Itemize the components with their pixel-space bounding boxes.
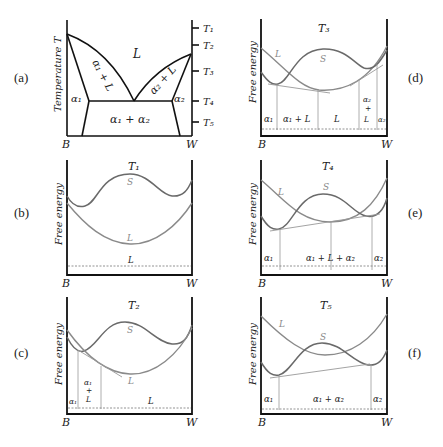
tick-t3: T₃ bbox=[203, 66, 214, 77]
range-alpha1: α₁ bbox=[264, 253, 273, 263]
panel-c-label: (c) bbox=[14, 345, 28, 360]
temperature-ticks: T₁ T₂ T₃ T₄ T₅ bbox=[192, 23, 214, 128]
svg-text:+: + bbox=[365, 104, 371, 113]
panel-d-b: B bbox=[257, 138, 266, 151]
panel-d-w: W bbox=[381, 138, 394, 151]
curve-l-label: L bbox=[127, 376, 134, 386]
tick-t4: T₄ bbox=[203, 96, 214, 107]
range-alpha1: α₁ bbox=[264, 114, 273, 124]
panel-e-label: (e) bbox=[408, 205, 422, 220]
panel-e-ylabel: Free energy bbox=[247, 183, 258, 246]
panel-e-w: W bbox=[381, 277, 394, 290]
curve-s-label: S bbox=[320, 332, 326, 342]
curve-s-label: S bbox=[127, 177, 133, 187]
range-alpha1: α₁ bbox=[69, 397, 77, 406]
curve-s-label: S bbox=[320, 54, 326, 64]
range-alpha2: α₂ bbox=[378, 116, 386, 124]
axis-b-label: B bbox=[61, 138, 70, 151]
panel-d-ylabel: Free energy bbox=[247, 41, 258, 104]
svg-text:+: + bbox=[86, 386, 92, 395]
panel-e-t4: T₄ (e) Free energy L S α₁ α₁ + L + α₂ α₂… bbox=[247, 160, 422, 290]
range-alpha1-alpha2: α₁ + α₂ bbox=[313, 394, 344, 404]
panel-f-t5: T₅ (f) Free energy L S α₁ α₁ + α₂ α₂ B W bbox=[247, 297, 421, 429]
panel-c-t2: T₂ (c) Free energy S L α₁ α₁ + L L B W bbox=[14, 297, 199, 429]
curve-l-label: L bbox=[278, 319, 285, 329]
range-l: L bbox=[127, 255, 134, 265]
solid-curve bbox=[261, 194, 387, 229]
panel-f-title: T₅ bbox=[320, 299, 332, 312]
region-alpha1-liquid: α₁ + L bbox=[90, 57, 116, 92]
region-alpha1: α₁ bbox=[71, 93, 82, 104]
panel-b-t1: T₁ (b) Free energy S L L B W bbox=[14, 160, 199, 290]
temperature-axis-label: Temperature T bbox=[52, 35, 63, 112]
region-alpha1-alpha2: α₁ + α₂ bbox=[110, 113, 150, 126]
panel-c-ylabel: Free energy bbox=[53, 323, 64, 386]
range-alpha2: α₂ bbox=[373, 394, 383, 404]
range-alpha1-l: α₁ + L bbox=[283, 114, 311, 124]
panel-e-title: T₄ bbox=[322, 160, 334, 173]
panel-c-b: B bbox=[61, 416, 70, 429]
curve-s-label: S bbox=[127, 325, 133, 335]
panel-d-title: T₃ bbox=[318, 22, 330, 35]
range-alpha1-l-alpha2: α₁ + L + α₂ bbox=[306, 253, 356, 263]
panel-f-w: W bbox=[381, 416, 394, 429]
range-alpha2-l: α₂ bbox=[363, 95, 371, 104]
panel-b-w: W bbox=[186, 277, 199, 290]
region-alpha2: α₂ bbox=[174, 93, 185, 104]
curve-s-label: S bbox=[323, 182, 329, 192]
panel-e-b: B bbox=[257, 277, 266, 290]
svg-text:L: L bbox=[363, 115, 369, 124]
axis-w-label: W bbox=[186, 138, 199, 151]
panel-b-b: B bbox=[61, 277, 70, 290]
svg-text:L: L bbox=[85, 395, 91, 404]
panel-d-label: (d) bbox=[408, 70, 423, 85]
tick-t2: T₂ bbox=[203, 40, 214, 51]
range-alpha1: α₁ bbox=[264, 394, 273, 404]
curve-l-label: L bbox=[277, 187, 284, 197]
panel-f-ylabel: Free energy bbox=[247, 323, 258, 386]
common-tangent bbox=[270, 214, 380, 231]
panel-d-t3: T₃ (d) Free energy L S α₁ α₁ + L L α₂ + … bbox=[247, 19, 423, 151]
tick-t5: T₅ bbox=[203, 117, 214, 128]
tick-t1: T₁ bbox=[203, 23, 214, 34]
curve-l-label: L bbox=[274, 49, 281, 59]
solvus-right bbox=[172, 101, 180, 136]
range-l: L bbox=[147, 396, 154, 406]
panel-c-title: T₂ bbox=[128, 299, 140, 312]
region-liquid: L bbox=[132, 47, 141, 61]
panel-b-label: (b) bbox=[14, 205, 29, 220]
panel-a-label: (a) bbox=[14, 70, 28, 85]
panel-a-phase-diagram: (a) Temperature T L α₁ + L α₂ + L α₁ α₂ … bbox=[14, 20, 214, 151]
range-l: L bbox=[333, 114, 340, 124]
range-alpha2: α₂ bbox=[374, 253, 384, 263]
common-tangent bbox=[78, 350, 122, 377]
panel-b-ylabel: Free energy bbox=[53, 183, 64, 246]
panel-f-label: (f) bbox=[408, 345, 421, 360]
panel-c-w: W bbox=[186, 416, 199, 429]
phase-diagram-figure: (a) Temperature T L α₁ + L α₂ + L α₁ α₂ … bbox=[0, 0, 443, 447]
panel-f-b: B bbox=[257, 416, 266, 429]
solvus-left bbox=[82, 101, 89, 136]
panel-b-title: T₁ bbox=[128, 160, 140, 173]
curve-l-label: L bbox=[126, 233, 133, 243]
